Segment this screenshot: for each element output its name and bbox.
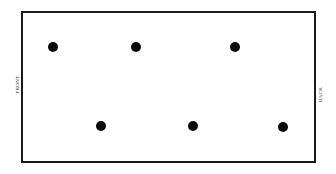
point-top-3 bbox=[230, 42, 240, 52]
point-top-1 bbox=[48, 42, 58, 52]
back-edge-label: BACK bbox=[318, 77, 323, 113]
point-top-2 bbox=[131, 42, 141, 52]
point-bottom-3 bbox=[278, 122, 288, 132]
point-bottom-2 bbox=[188, 121, 198, 131]
front-edge-label: FRONT bbox=[15, 67, 20, 103]
layout-boundary-rectangle bbox=[21, 11, 316, 163]
point-bottom-1 bbox=[96, 121, 106, 131]
diagram-canvas: FRONT BACK bbox=[0, 0, 336, 174]
